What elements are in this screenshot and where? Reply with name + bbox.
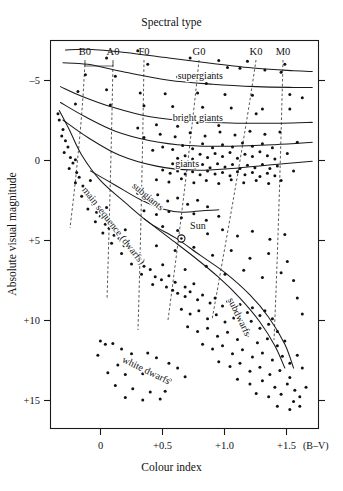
star-point — [251, 306, 254, 309]
star-point — [286, 382, 289, 385]
star-point — [104, 343, 107, 346]
star-point — [206, 205, 209, 208]
star-point — [280, 393, 283, 396]
star-point — [211, 254, 214, 257]
spectral-label-g0: G0 — [193, 46, 206, 57]
star-point — [166, 200, 169, 203]
star-point — [146, 351, 149, 354]
star-point — [89, 179, 92, 182]
star-point — [184, 173, 187, 176]
star-point — [101, 231, 104, 234]
star-point — [280, 179, 283, 182]
star-point — [217, 124, 220, 127]
star-point — [224, 165, 227, 168]
star-point — [74, 181, 77, 184]
star-point — [99, 340, 102, 343]
star-point — [209, 301, 212, 304]
star-point — [84, 73, 87, 76]
star-point — [206, 327, 209, 330]
star-point — [161, 146, 164, 149]
annotation-giants: giants — [175, 158, 199, 169]
star-point — [268, 373, 271, 376]
star-point — [201, 343, 204, 346]
star-point — [221, 228, 224, 231]
star-point — [248, 382, 251, 385]
star-point — [184, 154, 187, 157]
star-point — [130, 352, 133, 355]
star-point — [159, 398, 162, 401]
star-point — [130, 262, 133, 265]
star-point — [192, 282, 195, 285]
star-point — [267, 323, 270, 326]
star-point — [246, 60, 249, 63]
star-point — [224, 93, 227, 96]
star-point — [189, 56, 192, 59]
spectral-type-title: Spectral type — [141, 16, 201, 29]
star-point — [283, 340, 286, 343]
star-point — [184, 268, 187, 271]
star-point — [266, 337, 269, 340]
star-point — [229, 151, 232, 154]
star-point — [243, 173, 246, 176]
star-point — [155, 356, 158, 359]
y-tick-label-0: 0 — [35, 155, 40, 166]
sun-symbol-core — [180, 237, 183, 240]
star-point — [151, 149, 154, 152]
star-point — [273, 157, 276, 160]
star-point — [238, 67, 241, 70]
star-point — [276, 330, 279, 333]
star-point — [288, 376, 291, 379]
y-tick-label-minus5: –5 — [29, 75, 41, 86]
star-point — [174, 135, 177, 138]
star-point — [255, 179, 258, 182]
star-point — [174, 249, 177, 252]
star-point — [206, 317, 209, 320]
star-point — [149, 390, 152, 393]
star-point — [263, 309, 266, 312]
star-point — [241, 142, 244, 145]
y-tick-label-plus5: +5 — [29, 235, 40, 246]
star-point — [263, 133, 266, 136]
star-point — [184, 285, 187, 288]
star-point — [124, 373, 127, 376]
star-point — [215, 313, 218, 316]
star-point — [236, 157, 239, 160]
star-point — [136, 126, 139, 129]
star-point — [261, 142, 264, 145]
star-point — [176, 367, 179, 370]
star-point — [105, 88, 108, 91]
spectral-label-k0: K0 — [250, 46, 263, 57]
star-point — [211, 146, 214, 149]
star-point — [236, 378, 239, 381]
star-point — [258, 366, 261, 369]
star-point — [206, 232, 209, 235]
star-point — [189, 131, 192, 134]
star-point — [251, 171, 254, 174]
star-point — [114, 384, 117, 387]
star-point — [221, 344, 224, 347]
star-point — [296, 297, 299, 300]
star-point — [171, 162, 174, 165]
star-point — [205, 82, 208, 85]
star-point — [216, 162, 219, 165]
star-point — [68, 167, 71, 170]
star-point — [155, 244, 158, 247]
star-point — [61, 128, 64, 131]
star-point — [224, 320, 227, 323]
star-point — [298, 395, 301, 398]
color-index-unit-label: (B–V) — [303, 440, 329, 452]
star-point — [167, 210, 170, 213]
star-point — [197, 309, 200, 312]
star-point — [186, 325, 189, 328]
star-point — [171, 148, 174, 151]
star-point — [141, 398, 144, 401]
star-point — [167, 181, 170, 184]
star-point — [169, 172, 172, 175]
x-tick-label-0: 0 — [98, 440, 103, 451]
star-point — [276, 165, 279, 168]
hr-diagram-figure: Spectral type –5 0 +5 +10 +15 Absolute v… — [0, 0, 343, 491]
star-point — [224, 273, 227, 276]
star-point — [217, 215, 220, 218]
star-point — [258, 150, 261, 153]
star-point — [176, 125, 179, 128]
